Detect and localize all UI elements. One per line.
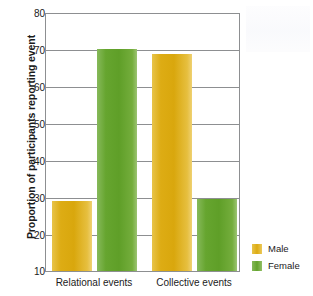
- legend-item-male[interactable]: Male: [252, 243, 300, 254]
- bar-collective-female[interactable]: [197, 199, 237, 271]
- gridline-40: [46, 161, 239, 162]
- bar-relational-male[interactable]: [52, 201, 92, 271]
- bar-collective-male[interactable]: [152, 54, 192, 271]
- bar-relational-female[interactable]: [97, 49, 137, 271]
- legend-label-male: Male: [268, 243, 289, 254]
- y-axis-title: Proportion of participants reporting eve…: [25, 12, 37, 262]
- gridline-60: [46, 87, 239, 88]
- x-tick-label-relational-events: Relational events: [56, 277, 133, 288]
- legend-item-female[interactable]: Female: [252, 260, 300, 271]
- y-tick-label: 10: [15, 266, 45, 277]
- page-watermark-artifact: [246, 6, 310, 52]
- female-color-swatch-icon: [252, 261, 262, 271]
- gridline-70: [46, 50, 239, 51]
- gridline-50: [46, 124, 239, 125]
- bar-chart: Proportion of participants reporting eve…: [0, 0, 313, 296]
- chart-legend: Male Female: [252, 243, 300, 277]
- plot-area: [45, 13, 240, 272]
- male-color-swatch-icon: [252, 244, 262, 254]
- legend-label-female: Female: [268, 260, 300, 271]
- x-tick-label-collective-events: Collective events: [156, 277, 232, 288]
